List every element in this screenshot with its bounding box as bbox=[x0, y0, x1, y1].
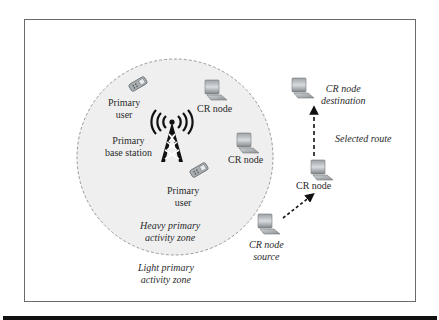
cr-node-source-label: CR nodesource bbox=[249, 239, 284, 263]
heavy-zone-label: Heavy primaryactivity zone bbox=[140, 220, 200, 244]
cr-node-source-laptop-icon bbox=[258, 214, 280, 234]
network-diagram bbox=[0, 0, 439, 320]
cr-node-label: CR node bbox=[197, 103, 232, 115]
cr-node-destination-label: CR nodedestination bbox=[321, 83, 365, 107]
selected-route-label: Selected route bbox=[335, 133, 392, 145]
cr-node-destination-laptop-icon bbox=[292, 78, 314, 98]
cr-node-label: CR node bbox=[228, 154, 263, 166]
light-zone-label: Light primaryactivity zone bbox=[138, 262, 194, 286]
bottom-rule bbox=[3, 316, 437, 320]
cr-node-relay-label: CR node bbox=[296, 180, 331, 192]
route-arrow-source-to-relay bbox=[283, 196, 311, 218]
base-station-label: Primarybase station bbox=[105, 135, 152, 159]
primary-user-label: Primaryuser bbox=[108, 97, 140, 121]
cr-node-relay-laptop-icon bbox=[311, 160, 333, 180]
primary-user-label: Primaryuser bbox=[167, 185, 199, 209]
